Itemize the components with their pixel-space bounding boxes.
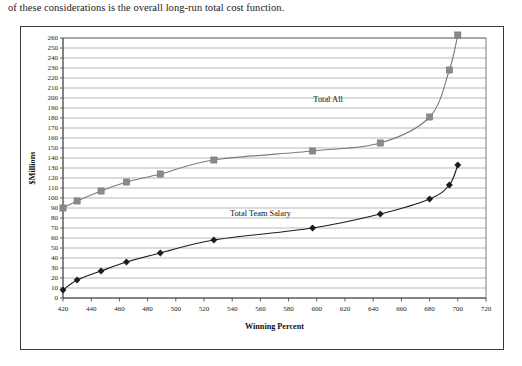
data-point-marker (98, 268, 104, 274)
data-point-marker (426, 196, 432, 202)
x-tick-label: 480 (142, 305, 153, 313)
y-tick-label: 70 (51, 224, 59, 232)
y-tick-label: 80 (51, 214, 59, 222)
series-label-total-all: Total All (313, 95, 343, 104)
y-axis-ticks: 0102030405060708090100110120130140150160… (48, 34, 64, 302)
y-tick-label: 40 (51, 254, 59, 262)
y-tick-label: 110 (48, 184, 59, 192)
x-tick-label: 420 (58, 305, 69, 313)
y-tick-label: 230 (48, 64, 59, 72)
x-tick-label: 560 (255, 305, 266, 313)
data-point-marker (427, 114, 433, 120)
y-tick-label: 10 (51, 284, 59, 292)
y-tick-label: 170 (48, 124, 59, 132)
data-point-marker (123, 259, 129, 265)
y-tick-label: 210 (48, 84, 59, 92)
data-point-marker (309, 148, 315, 154)
x-tick-label: 440 (86, 305, 97, 313)
data-point-marker (377, 140, 383, 146)
x-tick-label: 640 (368, 305, 379, 313)
line-chart: 0102030405060708090100110120130140150160… (21, 27, 505, 351)
y-tick-label: 200 (48, 94, 59, 102)
data-point-marker (446, 67, 452, 73)
y-tick-label: 190 (48, 104, 59, 112)
y-tick-label: 130 (48, 164, 59, 172)
data-point-marker (309, 225, 315, 231)
x-axis-title: Winning Percent (245, 322, 304, 331)
caption-text: of these considerations is the overall l… (8, 2, 284, 13)
y-axis-title: $Millions (28, 152, 37, 185)
y-tick-label: 250 (48, 44, 59, 52)
y-tick-label: 100 (48, 194, 59, 202)
gridlines-group (63, 38, 486, 288)
y-tick-label: 20 (51, 274, 59, 282)
x-axis-ticks: 4204404604805005205405605806006206406606… (58, 298, 492, 313)
data-point-marker (123, 179, 129, 185)
data-point-marker (60, 205, 66, 211)
y-tick-label: 240 (48, 54, 59, 62)
y-tick-label: 60 (51, 234, 59, 242)
x-tick-label: 600 (312, 305, 323, 313)
x-tick-label: 680 (424, 305, 435, 313)
data-point-marker (98, 188, 104, 194)
y-tick-label: 30 (51, 264, 59, 272)
y-tick-label: 0 (55, 294, 59, 302)
data-point-marker (377, 211, 383, 217)
x-tick-label: 620 (340, 305, 351, 313)
data-point-marker (74, 198, 80, 204)
x-tick-label: 660 (396, 305, 407, 313)
x-tick-label: 540 (227, 305, 238, 313)
y-tick-label: 180 (48, 114, 59, 122)
y-tick-label: 160 (48, 134, 59, 142)
series-label-total-team-salary: Total Team Salary (230, 209, 292, 218)
y-tick-label: 50 (51, 244, 59, 252)
data-point-marker (455, 162, 461, 168)
y-tick-label: 140 (48, 154, 59, 162)
x-tick-label: 720 (481, 305, 492, 313)
x-tick-label: 520 (199, 305, 210, 313)
chart-figure-frame: 0102030405060708090100110120130140150160… (20, 26, 504, 350)
series-line-total-all (63, 35, 458, 208)
data-point-marker (157, 171, 163, 177)
x-tick-label: 580 (283, 305, 294, 313)
data-point-marker (211, 157, 217, 163)
x-tick-label: 700 (453, 305, 464, 313)
data-point-marker (157, 250, 163, 256)
x-tick-label: 460 (114, 305, 125, 313)
y-tick-label: 120 (48, 174, 59, 182)
y-tick-label: 260 (48, 34, 59, 42)
data-point-marker (455, 32, 461, 38)
x-tick-label: 500 (171, 305, 182, 313)
chart-plot-area: 0102030405060708090100110120130140150160… (21, 27, 505, 351)
y-tick-label: 220 (48, 74, 59, 82)
data-series-group (60, 32, 461, 293)
y-tick-label: 150 (48, 144, 59, 152)
y-tick-label: 90 (51, 204, 59, 212)
